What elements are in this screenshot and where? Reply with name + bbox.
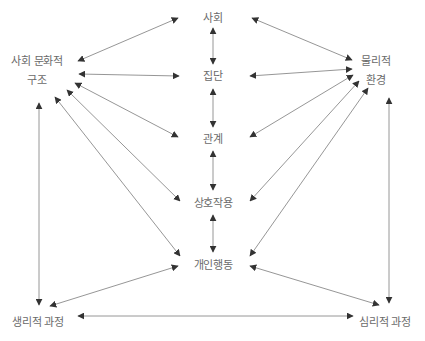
edge-environment-relationship	[250, 75, 353, 137]
node-individual-behavior-label: 개인행동	[194, 259, 233, 272]
node-physiological-process: 생리적 과정	[12, 313, 64, 332]
edge-environment-individual	[250, 88, 368, 256]
node-society-label: 사회	[203, 12, 222, 25]
node-interaction-label: 상호작용	[194, 197, 233, 210]
node-interaction: 상호작용	[194, 194, 233, 213]
node-society: 사회	[203, 9, 222, 28]
node-individual-behavior: 개인행동	[194, 256, 233, 275]
edge-individual-psychological	[250, 266, 379, 305]
node-relationship: 관계	[203, 130, 222, 149]
edge-individual-physiological	[50, 266, 178, 306]
edge-structure-individual	[55, 97, 180, 256]
node-physiological-process-label: 생리적 과정	[12, 316, 64, 329]
edge-environment-society	[252, 18, 352, 60]
node-physical-environment-line1: 물리적	[361, 52, 390, 71]
node-psychological-process: 심리적 과정	[359, 313, 411, 332]
edge-structure-society	[78, 18, 178, 61]
edge-structure-relationship	[75, 83, 178, 137]
edge-structure-group	[79, 74, 179, 76]
node-group-label: 집단	[203, 70, 222, 83]
node-physical-environment: 물리적 환경	[361, 52, 390, 90]
edge-environment-interaction	[250, 81, 359, 201]
node-psychological-process-label: 심리적 과정	[359, 316, 411, 329]
node-physical-environment-line2: 환경	[361, 71, 390, 90]
node-sociocultural-structure-line2: 구조	[11, 71, 63, 90]
node-group: 집단	[203, 67, 222, 86]
node-relationship-label: 관계	[203, 133, 222, 146]
relationship-diagram: 사회 집단 관계 상호작용 개인행동 사회 문화적 구조 물리적 환경 생리적 …	[0, 0, 425, 341]
edge-environment-group	[250, 69, 352, 76]
node-sociocultural-structure: 사회 문화적 구조	[11, 52, 63, 90]
node-sociocultural-structure-line1: 사회 문화적	[11, 52, 63, 71]
